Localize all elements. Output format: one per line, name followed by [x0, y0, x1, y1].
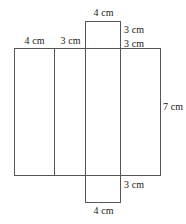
- label-top-flap-width: 4 cm: [86, 7, 121, 18]
- label-left-panel-width: 4 cm: [17, 35, 52, 46]
- label-bottom-flap-height: 3 cm: [124, 179, 144, 190]
- label-bottom-flap-width: 4 cm: [86, 205, 121, 216]
- bottom-flap-shape: [86, 175, 121, 202]
- label-band-height: 7 cm: [163, 101, 183, 112]
- net-drawing: [0, 0, 186, 224]
- label-second-panel-width: 3 cm: [55, 35, 86, 46]
- main-band-shape: [15, 49, 161, 176]
- net-diagram-figure: 4 cm 4 cm 3 cm 3 cm 3 cm 7 cm 3 cm 4 cm: [0, 0, 186, 224]
- top-flap-shape: [86, 22, 121, 49]
- label-right-upper-height: 3 cm: [124, 24, 144, 35]
- label-right-lower-height: 3 cm: [124, 38, 144, 49]
